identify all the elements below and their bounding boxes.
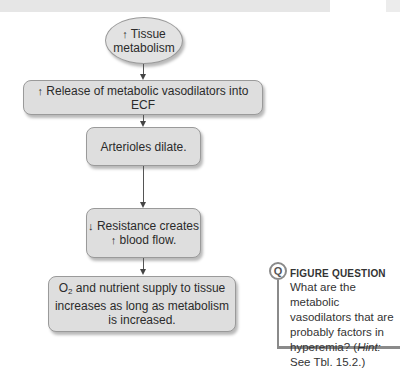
node-label: and nutrient supply to tissue [73, 281, 226, 295]
edge-3 [143, 166, 144, 203]
node-release-vasodilators: ↑ Release of metabolic vasodilators into… [23, 80, 263, 115]
node-arterioles-dilate: Arterioles dilate. [86, 127, 201, 166]
node-label: is increased. [108, 313, 175, 327]
top-gray-band [0, 0, 330, 12]
arrowhead-icon [140, 269, 146, 275]
node-label: Resistance creates [97, 219, 199, 233]
question-icon: Q [269, 262, 287, 280]
up-arrow-icon: ↑ [38, 85, 44, 97]
node-o2-supply: O2 and nutrient supply to tissue increas… [48, 276, 236, 332]
node-label: blood flow. [120, 233, 177, 247]
node-tissue-metabolism: ↑ Tissue metabolism [105, 17, 183, 64]
up-arrow-icon: ↑ [111, 234, 117, 246]
node-resistance-blood-flow: ↓ Resistance creates ↑ blood flow. [86, 208, 201, 258]
up-arrow-icon: ↑ [122, 28, 128, 40]
question-bracket-vertical [277, 280, 279, 348]
node-label: metabolism [113, 41, 174, 55]
o2-label: O [59, 281, 68, 295]
hint-label: Hint: [357, 341, 381, 353]
node-label: Arterioles dilate. [100, 140, 186, 154]
node-label: Release of metabolic vasodilators into E… [46, 84, 248, 112]
question-text: What are the metabolic vasodilators that… [290, 280, 400, 369]
top-corner-mark [386, 0, 400, 12]
node-label: Tissue [131, 27, 166, 41]
down-arrow-icon: ↓ [88, 220, 94, 232]
node-label: increases as long as metabolism [55, 299, 229, 313]
question-title: FIGURE QUESTION [290, 268, 386, 279]
